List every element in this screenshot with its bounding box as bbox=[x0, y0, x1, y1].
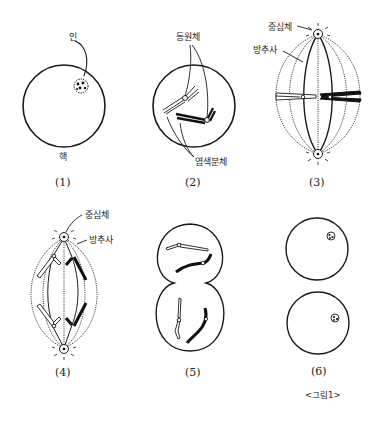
leader-chromatid-2 bbox=[180, 123, 194, 157]
panel-2: 동원체 염색분체 (2) bbox=[153, 32, 235, 189]
panel-3: 중심체 방추사 (3) bbox=[253, 22, 361, 189]
caption-1: (1) bbox=[55, 176, 71, 189]
label-spindle: 방추사 bbox=[253, 45, 278, 55]
centrosome-top-icon bbox=[52, 230, 76, 242]
nucleolus-icon bbox=[331, 314, 339, 322]
centrosome-top-icon bbox=[306, 23, 330, 39]
leader-centrosome bbox=[66, 215, 82, 232]
spindle-fibers bbox=[31, 238, 97, 348]
leader-centromere-1 bbox=[185, 45, 191, 96]
panel-1: 인 핵 (1) bbox=[23, 32, 105, 189]
chromosome-light bbox=[163, 86, 199, 114]
label-spindle: 방추사 bbox=[89, 235, 114, 245]
label-centrosome: 중심체 bbox=[268, 22, 292, 32]
chromatids-dark bbox=[66, 257, 86, 326]
nucleolus-icon bbox=[327, 232, 335, 240]
nucleolus-icon bbox=[74, 79, 88, 93]
label-centromere: 동원체 bbox=[176, 32, 200, 42]
figure-title: <그림1> bbox=[305, 390, 341, 400]
chromosome-dark bbox=[176, 108, 215, 123]
label-centrosome: 중심체 bbox=[85, 210, 109, 220]
panel-5: (5) bbox=[156, 224, 224, 379]
caption-5: (5) bbox=[185, 366, 201, 379]
chromosome-dark-bottom bbox=[187, 308, 206, 343]
label-nucleus: 핵 bbox=[59, 151, 67, 162]
chromosome-light-top bbox=[166, 243, 208, 251]
chromosome-light bbox=[276, 93, 316, 100]
leader-chromatid-1 bbox=[167, 117, 194, 157]
daughter-cell-bottom bbox=[287, 292, 349, 354]
centrosome-bottom-icon bbox=[306, 150, 330, 166]
caption-2: (2) bbox=[185, 176, 201, 189]
cell-circle bbox=[153, 65, 235, 147]
caption-6: (6) bbox=[311, 365, 327, 378]
chromosome-dark bbox=[320, 91, 361, 102]
kinetochore-fibers bbox=[48, 238, 78, 348]
centrosome-bottom-icon bbox=[52, 345, 76, 361]
caption-4: (4) bbox=[55, 366, 71, 379]
cell-division-diagram: 인 핵 (1) 동원체 염색분체 (2) bbox=[0, 0, 380, 423]
dividing-cell-outline bbox=[156, 224, 224, 351]
nucleus-circle bbox=[23, 65, 105, 147]
label-nucleolus: 인 bbox=[69, 32, 77, 42]
panel-4: 중심체 방추사 (4) bbox=[31, 210, 114, 379]
caption-3: (3) bbox=[309, 176, 325, 189]
chromatids-light bbox=[37, 254, 61, 328]
daughter-cell-top bbox=[286, 218, 348, 280]
leader-centromere-2 bbox=[192, 45, 208, 118]
chromosome-dark-top bbox=[176, 254, 211, 272]
label-chromatid: 염색분체 bbox=[195, 157, 227, 167]
panel-6: (6) <그림1> bbox=[286, 218, 349, 400]
leader-spindle bbox=[77, 240, 87, 244]
chromosome-light-bottom bbox=[175, 298, 181, 339]
